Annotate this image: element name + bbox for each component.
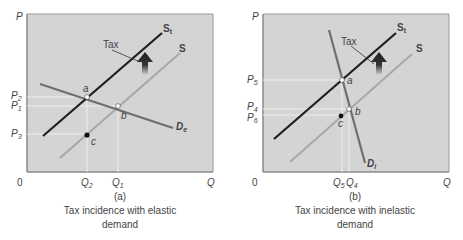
x-axis-label-a: Q xyxy=(207,177,215,188)
origin-label-a: 0 xyxy=(17,177,23,188)
point-c-marker-a xyxy=(84,132,89,137)
caption-a: (a) Tax incidence with elastic demand xyxy=(50,190,190,232)
panel-b: Tax a b c St S Di P 0 Q P5 P4 P6 Q5 Q4 xyxy=(247,11,451,189)
point-a-label-a: a xyxy=(83,83,89,94)
caption-b-line2: demand xyxy=(280,218,430,232)
price-label-p6: P6 xyxy=(247,112,258,124)
panel-a: Tax a b c St S De P 0 Q P2 P1 P3 Q2 Q1 xyxy=(11,11,215,189)
origin-label-b: 0 xyxy=(252,177,258,188)
caption-b: (b) Tax incidence with inelastic demand xyxy=(280,190,430,232)
tax-label-b: Tax xyxy=(341,36,357,47)
caption-b-line1: Tax incidence with inelastic xyxy=(280,204,430,218)
point-a-marker-a xyxy=(85,95,90,100)
caption-a-line2: demand xyxy=(50,218,190,232)
supply-label-b: S xyxy=(416,43,423,54)
panel-tag-b: (b) xyxy=(280,190,430,204)
panel-tag-a: (a) xyxy=(50,190,190,204)
point-a-label-b: a xyxy=(347,75,353,86)
quantity-label-q5: Q5 xyxy=(333,177,345,189)
point-a-marker-b xyxy=(340,78,345,83)
quantity-label-q4: Q4 xyxy=(346,177,358,189)
quantity-label-q2: Q2 xyxy=(81,177,93,189)
quantity-label-q1: Q1 xyxy=(112,177,124,189)
y-axis-label-a: P xyxy=(16,11,23,22)
supply-label-a: S xyxy=(179,43,186,54)
plot-area-a xyxy=(27,14,213,172)
y-axis-label-b: P xyxy=(252,11,259,22)
point-b-label-a: b xyxy=(121,110,127,121)
price-label-p3: P3 xyxy=(11,128,22,140)
point-c-label-a: c xyxy=(91,136,96,147)
point-b-label-b: b xyxy=(355,106,361,117)
point-b-marker-a xyxy=(116,104,121,109)
point-c-label-b: c xyxy=(338,118,343,129)
x-axis-label-b: Q xyxy=(443,177,451,188)
caption-a-line1: Tax incidence with elastic xyxy=(50,204,190,218)
tax-label-a: Tax xyxy=(103,39,119,50)
point-b-marker-b xyxy=(347,107,352,112)
price-label-p5: P5 xyxy=(247,74,258,86)
